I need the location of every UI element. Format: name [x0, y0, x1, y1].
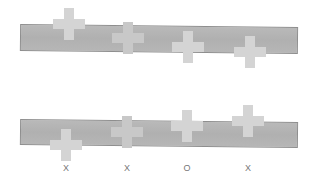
label-1: X [59, 163, 73, 173]
bottom-cross-1 [50, 129, 82, 161]
top-cross-2 [112, 22, 144, 54]
label-2: X [120, 163, 134, 173]
bottom-cross-4 [232, 105, 264, 137]
top-cross-4 [234, 36, 266, 68]
label-4: X [241, 163, 255, 173]
top-cross-3 [172, 31, 204, 63]
label-3: O [180, 163, 194, 173]
bottom-cross-2 [111, 116, 143, 148]
bottom-cross-3 [171, 110, 203, 142]
top-cross-1 [53, 8, 85, 40]
